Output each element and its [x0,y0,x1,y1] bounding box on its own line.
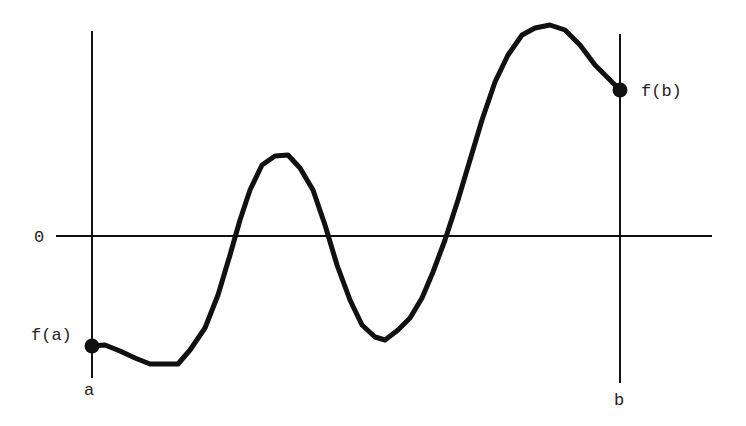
label-a: a [84,381,94,400]
point-fb [613,83,628,98]
label-fa: f(a) [31,326,72,345]
label-zero: 0 [34,228,44,247]
function-graph-diagram: 0 f(a) f(b) a b [0,0,746,426]
label-b: b [614,391,624,410]
label-fb: f(b) [641,82,682,101]
point-fa [85,339,100,354]
function-curve [92,25,620,364]
